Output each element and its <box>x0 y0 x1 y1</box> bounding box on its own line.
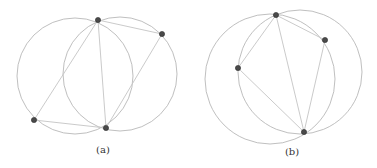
circle-b-1 <box>205 14 335 144</box>
edge-a-right-bottom <box>106 34 162 128</box>
point-a-top <box>95 17 100 22</box>
edge-b-top-left <box>238 15 276 68</box>
figure-b: (b) <box>205 10 362 157</box>
point-b-top <box>273 12 278 17</box>
circle-a-1 <box>17 18 133 134</box>
point-b-bottom <box>301 129 306 134</box>
figure-a: (a) <box>17 17 177 155</box>
edge-a-left-bottom <box>34 120 106 128</box>
point-a-left <box>31 117 36 122</box>
point-a-right <box>159 31 164 36</box>
figure-label-b: (b) <box>285 146 299 157</box>
point-b-left <box>235 65 240 70</box>
edge-b-top-right <box>276 15 325 40</box>
edge-a-top-left <box>34 20 98 120</box>
edge-b-top-bottom <box>276 15 304 132</box>
edge-a-top-bottom <box>98 20 106 128</box>
point-a-bottom <box>103 125 108 130</box>
diagram-canvas: (a) (b) <box>0 0 377 168</box>
edge-b-left-bottom <box>238 68 304 132</box>
figure-label-a: (a) <box>96 144 110 155</box>
point-b-right <box>322 37 327 42</box>
